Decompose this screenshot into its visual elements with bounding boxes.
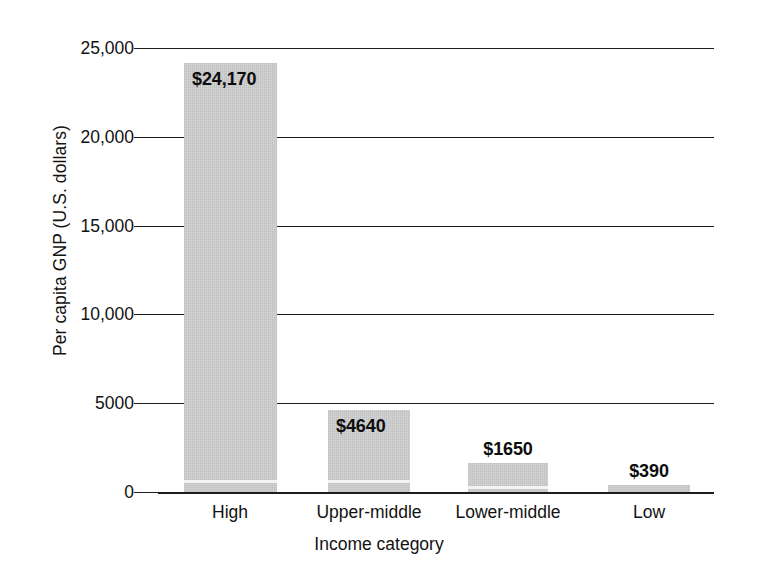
bar-upper-middle: $4640 <box>328 410 410 492</box>
y-tick-0 <box>134 492 158 493</box>
axis-baseline-0 <box>158 492 714 494</box>
x-tick-label-lower-middle: Lower-middle <box>455 502 560 523</box>
y-tick-label-5000: 5000 <box>24 393 134 414</box>
bar-high: $24,170 <box>184 63 277 492</box>
bar-value-lower-middle: $1650 <box>483 439 533 460</box>
y-tick-10000 <box>134 314 158 315</box>
bar-streak-upper-middle <box>328 480 410 483</box>
bar-value-low: $390 <box>629 461 669 482</box>
y-tick-label-20000: 20,000 <box>24 126 134 147</box>
x-tick-label-upper-middle: Upper-middle <box>316 502 421 523</box>
y-axis-title: Per capita GNP (U.S. dollars) <box>50 41 71 441</box>
y-tick-label-0: 0 <box>24 482 134 503</box>
bar-lower-middle: $1650 <box>468 463 548 492</box>
bar-streak-lower-middle <box>468 486 548 489</box>
x-axis-title: Income category <box>0 534 758 555</box>
bar-low: $390 <box>608 485 690 492</box>
y-tick-label-10000: 10,000 <box>24 304 134 325</box>
plot-area: $24,170 $4640 $1650 $390 <box>158 48 714 492</box>
y-tick-label-25000: 25,000 <box>24 38 134 59</box>
bar-streak-high <box>184 480 277 483</box>
bar-chart-figure: Per capita GNP (U.S. dollars) 25,000 20,… <box>0 0 758 588</box>
y-tick-5000 <box>134 403 158 404</box>
y-tick-15000 <box>134 226 158 227</box>
y-tick-25000 <box>134 48 158 49</box>
x-tick-label-low: Low <box>633 502 665 523</box>
y-tick-20000 <box>134 137 158 138</box>
gridline-25000 <box>158 48 714 49</box>
bar-value-high: $24,170 <box>192 69 256 90</box>
bar-value-upper-middle: $4640 <box>336 416 386 437</box>
y-tick-label-15000: 15,000 <box>24 215 134 236</box>
x-tick-label-high: High <box>212 502 248 523</box>
